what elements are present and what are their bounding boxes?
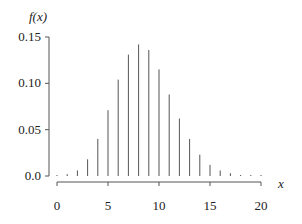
y-axis: 0.00.050.100.15 bbox=[18, 29, 49, 183]
y-tick-label: 0.0 bbox=[25, 168, 41, 183]
x-tick-label: 15 bbox=[204, 198, 217, 213]
x-axis-label: x bbox=[277, 176, 284, 191]
pmf-stem-chart: 0.00.050.100.15 05101520 f(x) x bbox=[0, 0, 302, 224]
y-tick-label: 0.05 bbox=[18, 122, 41, 137]
stems bbox=[57, 44, 261, 176]
x-axis: 05101520 bbox=[54, 182, 268, 213]
y-tick-label: 0.10 bbox=[18, 75, 41, 90]
x-tick-label: 5 bbox=[105, 198, 112, 213]
x-tick-label: 0 bbox=[54, 198, 61, 213]
x-tick-label: 20 bbox=[255, 198, 268, 213]
y-axis-label: f(x) bbox=[29, 9, 47, 24]
x-tick-label: 10 bbox=[153, 198, 166, 213]
y-tick-label: 0.15 bbox=[18, 29, 41, 44]
